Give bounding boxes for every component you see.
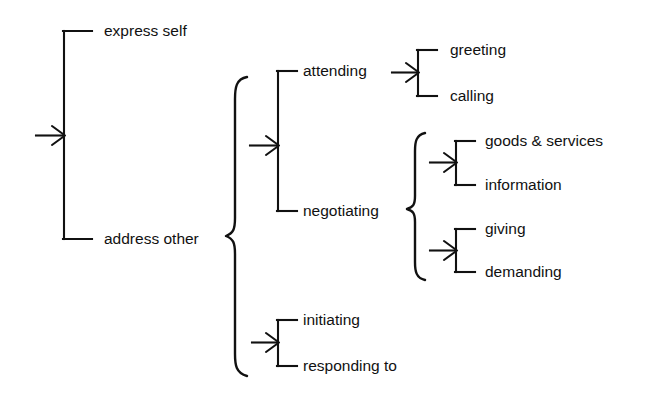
feature-label-giving: giving	[485, 220, 526, 237]
system-network-diagram: express self address other attending neg…	[0, 0, 665, 399]
bracket-commodity	[455, 141, 475, 185]
feature-label-demanding: demanding	[485, 263, 562, 280]
arrow-initiation	[252, 333, 279, 352]
bracket-attending-type	[417, 50, 437, 96]
entry-arrow	[36, 126, 65, 145]
feature-label-attending: attending	[303, 62, 367, 79]
bracket-speech-role	[63, 31, 92, 239]
bracket-orientation	[277, 71, 297, 211]
brace-negotiating	[407, 133, 425, 280]
feature-label-calling: calling	[450, 87, 494, 104]
arrow-exchange-role	[430, 241, 457, 260]
arrow-commodity	[430, 153, 457, 172]
brace-address-other	[226, 77, 247, 376]
feature-label-express-self: express self	[104, 22, 187, 39]
arrow-attending-type	[392, 63, 419, 82]
feature-label-address-other: address other	[104, 230, 199, 247]
feature-label-information: information	[485, 176, 562, 193]
bracket-initiation	[277, 320, 297, 366]
feature-label-greeting: greeting	[450, 41, 506, 58]
feature-label-goods-services: goods & services	[485, 132, 603, 149]
feature-label-responding-to: responding to	[303, 357, 397, 374]
feature-label-initiating: initiating	[303, 311, 360, 328]
feature-label-negotiating: negotiating	[303, 202, 379, 219]
arrow-orientation	[250, 136, 279, 155]
diagram-canvas: express self address other attending neg…	[0, 0, 665, 399]
